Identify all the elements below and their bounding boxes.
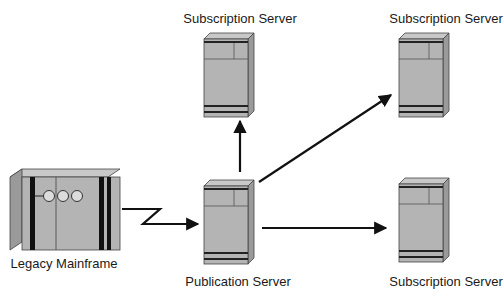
legacy-mainframe-icon [10, 169, 120, 250]
subscription-server-top-right-icon [399, 33, 449, 117]
label-publication-server: Publication Server [185, 274, 291, 289]
label-subscription-server-top-right: Subscription Server [389, 11, 502, 26]
diagram-canvas [0, 0, 504, 298]
subscription-server-top-mid-icon [204, 33, 254, 117]
label-subscription-server-bottom-right: Subscription Server [389, 274, 502, 289]
label-legacy-mainframe: Legacy Mainframe [11, 256, 118, 271]
edge-publication-to-sub-top-right [259, 95, 391, 182]
subscription-server-bottom-right-icon [399, 178, 449, 262]
edge-legacy-to-publication [122, 209, 198, 224]
label-subscription-server-top-mid: Subscription Server [183, 11, 296, 26]
publication-server-icon [204, 180, 254, 264]
